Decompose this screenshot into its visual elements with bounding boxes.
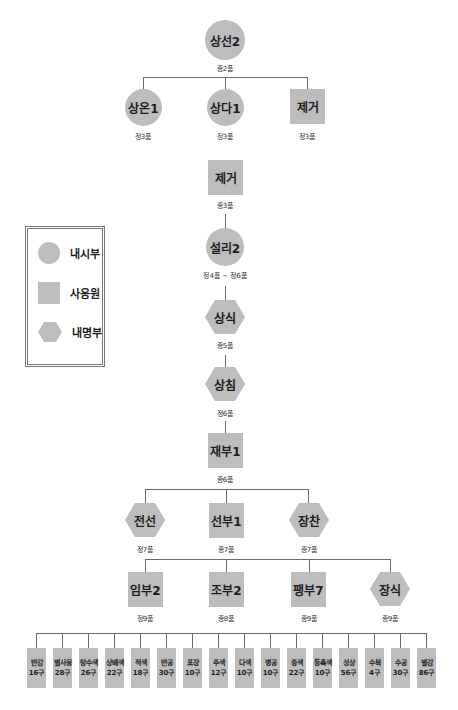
connector [226,489,227,503]
leaf-node: 상배색22구 [105,648,124,688]
leaf-count: 16구 [29,668,45,678]
square-icon [38,282,60,304]
connector [296,633,297,648]
connector [348,633,349,648]
leaf-name: 반감 [31,658,43,668]
leaf-name: 주색 [213,658,225,668]
node-jobu: 조부2 [209,572,244,607]
connector [145,489,309,490]
legend-label: 내명부 [72,324,102,340]
leaf-count: 30구 [393,668,409,678]
node-jegeo-2: 제거 [208,160,243,195]
leaf-count: 26구 [81,668,97,678]
leaf-node: 다색10구 [235,648,254,688]
node-jangchan: 장찬 [289,503,329,537]
leaf-count: 10구 [263,668,279,678]
node-sangda: 상다1 [207,89,244,126]
leaf-node: 별감86구 [417,648,436,688]
rank-label: 정3품 [103,131,183,141]
leaf-count: 56구 [341,668,357,678]
connector [309,559,310,572]
node-jeonseon: 전선 [125,503,165,537]
node-seonbu: 선부1 [209,503,244,538]
connector [225,214,226,228]
rank-label: 정3품 [185,131,265,141]
leaf-node: 반공30구 [157,648,176,688]
hexagon-icon [38,322,62,342]
node-sangchim: 상침 [205,367,245,401]
leaf-node: 수공30구 [391,648,410,688]
connector [192,633,193,648]
connector [426,633,427,648]
leaf-count: 28구 [55,668,71,678]
legend-label: 사옹원 [70,285,100,301]
rank-label: 정7품 [105,544,185,554]
node-sangon: 상온1 [125,89,162,126]
rank-label: 종7품 [269,544,349,554]
connector [244,633,245,648]
leaf-node: 별사옹28구 [53,648,72,688]
leaf-count: 12구 [211,668,227,678]
connector [114,633,115,648]
leaf-count: 86구 [419,668,435,678]
rank-label: 정6품 [185,408,265,418]
leaf-name: 별사옹 [54,658,72,668]
node-jangsik: 장식 [370,572,410,606]
leaf-node: 병공10구 [261,648,280,688]
leaf-name: 증색 [291,658,303,668]
node-sangsik: 상식 [205,300,245,334]
node-imbu: 임부2 [128,572,163,607]
legend-item-saongwon: 사옹원 [38,282,100,304]
leaf-name: 상배색 [106,658,124,668]
leaf-count: 30구 [159,668,175,678]
connector [140,633,141,648]
leaf-count: 22구 [107,668,123,678]
connector [62,633,63,648]
connector [145,559,390,560]
leaf-count: 4구 [369,668,380,678]
connector [145,559,146,572]
leaf-name: 포장 [187,658,199,668]
rank-label: 정3품 [267,131,347,141]
leaf-count: 10구 [315,668,331,678]
leaf-count: 10구 [185,668,201,678]
legend-item-naemyeongbu: 내명부 [38,322,102,342]
leaf-name: 병공 [265,658,277,668]
leaf-name: 등촉색 [314,658,332,668]
leaf-node: 주색12구 [209,648,228,688]
leaf-name: 반공 [161,658,173,668]
leaf-node: 적색18구 [131,648,150,688]
connector [145,489,146,503]
leaf-node: 성상56구 [339,648,358,688]
connector [218,633,219,648]
rank-label: 종3품 [185,200,265,210]
node-sangseon: 상선2 [205,20,245,60]
node-paengbu: 팽부7 [291,572,326,607]
node-jegeo-1: 제거 [290,89,325,124]
leaf-node: 포장10구 [183,648,202,688]
legend: 내시부 사옹원 내명부 [25,226,105,367]
leaf-node: 탕수색26구 [79,648,98,688]
leaf-node: 수복4구 [365,648,384,688]
leaf-name: 별감 [421,658,433,668]
leaf-name: 수공 [395,658,407,668]
connector [225,421,226,433]
rank-label: 종6품 [185,474,265,484]
leaf-name: 수복 [369,658,381,668]
node-jaebu: 재부1 [208,433,243,468]
connector [225,77,226,89]
circle-icon [38,242,60,264]
connector [390,559,391,572]
leaf-node: 증색22구 [287,648,306,688]
leaf-name: 다색 [239,658,251,668]
connector [225,286,226,300]
legend-item-naesibu: 내시부 [38,242,100,264]
leaf-name: 적색 [135,658,147,668]
connector [400,633,401,648]
rank-label: 종7품 [186,544,266,554]
legend-label: 내시부 [70,245,100,261]
connector [36,633,37,648]
connector [270,633,271,648]
connector [88,633,89,648]
rank-label: 정9품 [105,613,185,623]
